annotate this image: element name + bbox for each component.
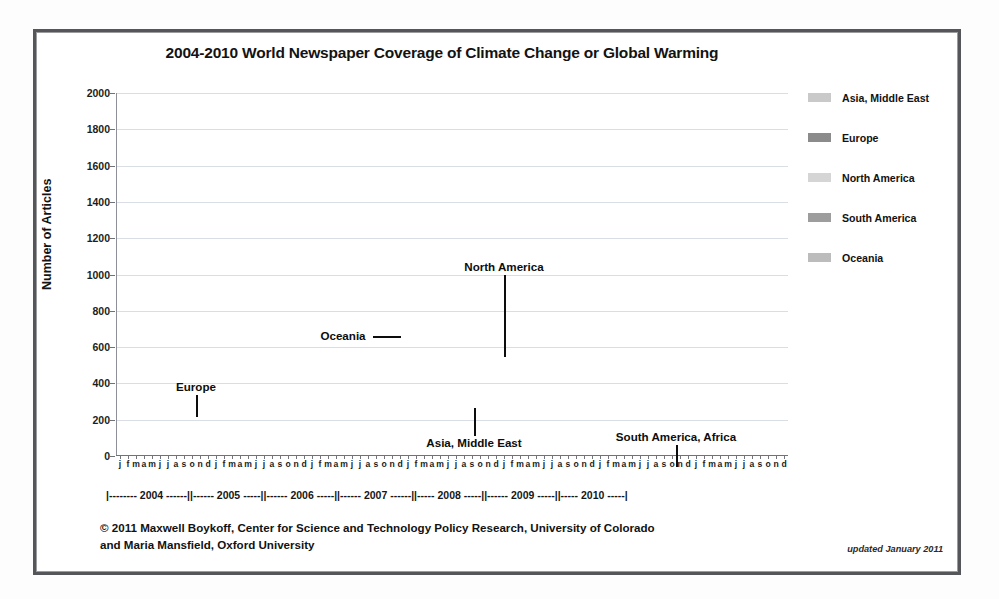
y-axis-tick-label: 0 xyxy=(66,450,110,462)
annotation-label: Oceania xyxy=(320,329,365,342)
month-label: a xyxy=(174,459,179,469)
figure-page: 2004-2010 World Newspaper Coverage of Cl… xyxy=(0,0,999,599)
month-label: m xyxy=(532,459,540,469)
month-label: m xyxy=(420,459,428,469)
month-label: s xyxy=(470,459,475,469)
month-label: j xyxy=(215,459,217,469)
month-label: m xyxy=(708,459,716,469)
legend-item-label: Oceania xyxy=(842,252,883,264)
month-label: a xyxy=(270,459,275,469)
month-label: j xyxy=(647,459,649,469)
gridline xyxy=(116,275,788,276)
month-label: m xyxy=(340,459,348,469)
gridline xyxy=(116,311,788,312)
month-label: s xyxy=(566,459,571,469)
month-label: f xyxy=(607,459,610,469)
month-label: n xyxy=(293,459,298,469)
month-label: j xyxy=(167,459,169,469)
month-label: j xyxy=(543,459,545,469)
legend-item[interactable]: Europe xyxy=(808,130,958,145)
legend-swatch-europe xyxy=(808,133,831,142)
month-label: d xyxy=(685,459,690,469)
month-label: s xyxy=(758,459,763,469)
month-label: a xyxy=(366,459,371,469)
month-label: s xyxy=(374,459,379,469)
y-axis-tick-label: 1000 xyxy=(66,269,110,281)
month-label: j xyxy=(743,459,745,469)
annotation-leader-line xyxy=(504,275,506,357)
legend-item[interactable]: South America xyxy=(808,210,958,225)
month-label: f xyxy=(223,459,226,469)
legend-item[interactable]: Asia, Middle East xyxy=(808,90,958,105)
month-label: o xyxy=(765,459,770,469)
annotation-label: South America, Africa xyxy=(616,430,736,443)
month-label: a xyxy=(430,459,435,469)
annotation-leader-line xyxy=(196,395,198,417)
month-label: a xyxy=(334,459,339,469)
gridline xyxy=(116,129,788,130)
month-label: j xyxy=(119,459,121,469)
month-label: m xyxy=(148,459,156,469)
month-label: j xyxy=(599,459,601,469)
month-label: f xyxy=(127,459,130,469)
month-label: j xyxy=(351,459,353,469)
month-label: o xyxy=(573,459,578,469)
month-label: n xyxy=(485,459,490,469)
plot-area xyxy=(116,93,788,456)
month-label: j xyxy=(503,459,505,469)
chart-title: 2004-2010 World Newspaper Coverage of Cl… xyxy=(92,44,792,62)
y-axis-tick-label: 2000 xyxy=(66,87,110,99)
y-axis-tick-mark xyxy=(110,311,115,312)
y-axis-tick-label: 1200 xyxy=(66,232,110,244)
y-axis-tick-mark xyxy=(110,383,115,384)
month-label: j xyxy=(735,459,737,469)
annotation-leader-line xyxy=(373,336,401,338)
annotation-leader-line xyxy=(474,408,476,436)
annotation-label: North America xyxy=(464,260,543,273)
month-label: j xyxy=(455,459,457,469)
y-axis-tick-label: 1600 xyxy=(66,160,110,172)
month-label: o xyxy=(189,459,194,469)
y-axis-tick-label: 400 xyxy=(66,377,110,389)
month-label: f xyxy=(319,459,322,469)
legend-item[interactable]: North America xyxy=(808,170,958,185)
month-label: a xyxy=(718,459,723,469)
legend-swatch-south-america xyxy=(808,213,831,222)
month-label: n xyxy=(773,459,778,469)
legend-item-label: Asia, Middle East xyxy=(842,92,929,104)
month-label: n xyxy=(581,459,586,469)
month-label: a xyxy=(462,459,467,469)
month-label: n xyxy=(197,459,202,469)
month-label: m xyxy=(436,459,444,469)
x-axis-year-band: |-------- 2004 ------||------ 2005 -----… xyxy=(106,489,806,507)
month-label: o xyxy=(477,459,482,469)
y-axis-tick-mark xyxy=(110,275,115,276)
credit-line-2: and Maria Mansfield, Oxford University xyxy=(100,537,820,554)
month-label: m xyxy=(612,459,620,469)
y-axis-tick-mark xyxy=(110,456,115,457)
y-axis-tick-mark xyxy=(110,420,115,421)
month-label: j xyxy=(359,459,361,469)
month-label: j xyxy=(639,459,641,469)
y-axis-title: Number of Articles xyxy=(40,179,54,290)
month-label: o xyxy=(669,459,674,469)
month-label: n xyxy=(677,459,682,469)
month-label: m xyxy=(228,459,236,469)
month-label: d xyxy=(301,459,306,469)
y-axis-tick-label: 600 xyxy=(66,341,110,353)
month-label: n xyxy=(389,459,394,469)
y-axis-tick-label: 200 xyxy=(66,414,110,426)
y-axis-tick-mark xyxy=(110,129,115,130)
legend-item-label: North America xyxy=(842,172,915,184)
month-label: j xyxy=(263,459,265,469)
month-label: o xyxy=(285,459,290,469)
month-label: m xyxy=(724,459,732,469)
month-label: m xyxy=(132,459,140,469)
month-label: j xyxy=(311,459,313,469)
month-label: j xyxy=(447,459,449,469)
gridline xyxy=(116,202,788,203)
legend-item[interactable]: Oceania xyxy=(808,250,958,265)
legend: Asia, Middle EastEuropeNorth AmericaSout… xyxy=(808,90,958,290)
month-label: j xyxy=(551,459,553,469)
month-label: o xyxy=(381,459,386,469)
